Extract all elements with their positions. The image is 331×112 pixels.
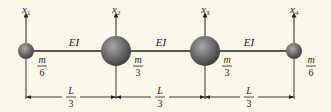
svg-text:L: L [156, 85, 163, 96]
svg-text:L: L [245, 85, 252, 96]
svg-text:3: 3 [158, 98, 163, 109]
svg-text:L: L [67, 85, 74, 96]
svg-text:6: 6 [309, 67, 314, 78]
stiffness-label-2: EI [155, 36, 168, 48]
mass-label-1: m 6 [37, 54, 47, 78]
dimension-2: L 3 [116, 85, 205, 109]
mass-label-2: m 3 [133, 54, 143, 78]
svg-text:6: 6 [40, 67, 45, 78]
mass-1-ball [18, 43, 34, 59]
coordinate-arrow-2: x2 [111, 3, 121, 36]
mass-4-ball [286, 43, 302, 59]
coordinate-arrow-3: x3 [200, 3, 210, 36]
stiffness-label-1: EI [68, 36, 81, 48]
svg-text:x2: x2 [111, 3, 121, 17]
svg-text:m: m [134, 54, 141, 65]
svg-text:x3: x3 [200, 3, 210, 17]
svg-text:m: m [223, 54, 230, 65]
svg-text:3: 3 [136, 67, 141, 78]
svg-text:3: 3 [225, 67, 230, 78]
mass-label-3: m 3 [222, 54, 232, 78]
mass-2-ball [101, 36, 131, 66]
svg-text:3: 3 [247, 98, 252, 109]
beam-diagram: EI EI EI x1 x2 x3 x4 m 6 m 3 m 3 [0, 0, 331, 112]
svg-text:3: 3 [69, 98, 74, 109]
mass-3-ball [190, 36, 220, 66]
coordinate-arrow-1: x1 [21, 3, 31, 43]
mass-label-4: m 6 [306, 54, 316, 78]
dimension-1: L 3 [26, 85, 116, 109]
coordinate-arrow-4: x4 [289, 3, 299, 43]
stiffness-label-3: EI [243, 36, 256, 48]
svg-text:m: m [307, 54, 314, 65]
svg-text:x1: x1 [21, 3, 31, 17]
svg-text:m: m [38, 54, 45, 65]
dimension-3: L 3 [205, 85, 294, 109]
svg-text:x4: x4 [289, 3, 299, 17]
